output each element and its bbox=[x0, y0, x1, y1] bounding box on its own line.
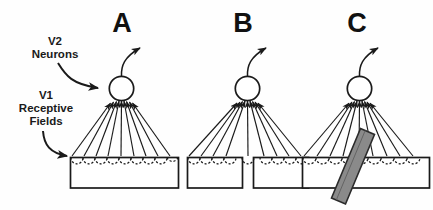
afferent-a-5 bbox=[121, 101, 122, 156]
v1-label-line2: Receptive bbox=[19, 102, 73, 114]
cortex-sheet-a bbox=[71, 158, 179, 189]
cortex-sheet-b-left bbox=[188, 158, 243, 189]
v2-label-line1: V2 bbox=[48, 35, 62, 47]
cortex-sheet-c bbox=[303, 158, 430, 189]
panel-letter-b: B bbox=[233, 8, 253, 38]
panel-letter-c: C bbox=[347, 8, 367, 38]
neuron-soma-a bbox=[109, 76, 133, 100]
v1-label-line1: V1 bbox=[39, 89, 54, 101]
v1-label-line3: Fields bbox=[29, 115, 62, 127]
neuron-soma-b bbox=[235, 76, 259, 100]
figure-canvas: A B C V2 Neurons V1 Receptive Fields bbox=[0, 0, 433, 210]
v2-label-line2: Neurons bbox=[32, 48, 79, 60]
afferent-b-5 bbox=[248, 101, 249, 156]
neuron-soma-c bbox=[347, 76, 371, 100]
panel-letter-a: A bbox=[112, 8, 132, 38]
